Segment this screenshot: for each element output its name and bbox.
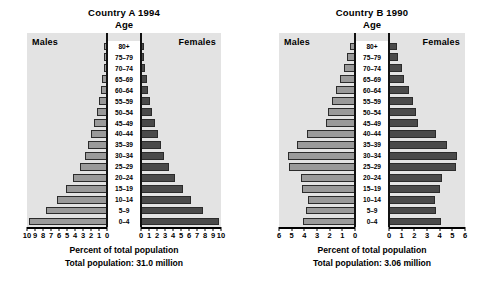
center-rule-right [388, 33, 390, 227]
age-group-label: 0–4 [355, 216, 389, 227]
female-half [389, 172, 465, 183]
bar-female [389, 207, 436, 215]
bar-male [297, 141, 355, 149]
bar-female [389, 108, 416, 116]
age-group-label: 45–49 [107, 118, 141, 129]
female-half [141, 194, 221, 205]
x-tick-label: 7 [49, 231, 53, 240]
bar-male [340, 75, 355, 83]
female-half [389, 216, 465, 227]
x-tick-label: 2 [412, 231, 416, 240]
bar-row: 50–54 [279, 107, 465, 118]
x-tick-label: 6 [277, 231, 281, 240]
male-half [279, 139, 355, 150]
male-half [279, 107, 355, 118]
female-half [389, 52, 465, 63]
x-tick-label: 10 [23, 231, 31, 240]
plot-area: Males Females 80+75–7970–7465–6960–6455–… [27, 33, 221, 227]
bar-row: 10–14 [27, 194, 221, 205]
age-group-label: 40–44 [355, 129, 389, 140]
x-tick-label: 3 [425, 231, 429, 240]
female-half [389, 194, 465, 205]
x-tick-label: 6 [463, 231, 467, 240]
age-group-label: 45–49 [355, 118, 389, 129]
male-half [279, 85, 355, 96]
age-group-label: 60–64 [107, 85, 141, 96]
male-half [27, 118, 107, 129]
bar-row: 20–24 [27, 172, 221, 183]
bar-row: 30–34 [27, 150, 221, 161]
bar-row: 5–9 [27, 205, 221, 216]
x-tick-label: 8 [41, 231, 45, 240]
bar-row: 65–69 [279, 74, 465, 85]
x-tick-label: 7 [195, 231, 199, 240]
bar-row: 70–74 [279, 63, 465, 74]
male-half [279, 205, 355, 216]
age-group-label: 75–79 [355, 52, 389, 63]
bar-row: 60–64 [27, 85, 221, 96]
x-tick-label: 5 [65, 231, 69, 240]
female-half [389, 118, 465, 129]
female-half [141, 107, 221, 118]
bar-row: 75–79 [27, 52, 221, 63]
x-tick-label: 9 [33, 231, 37, 240]
bar-female [141, 108, 152, 116]
bar-male [91, 130, 107, 138]
age-group-label: 60–64 [355, 85, 389, 96]
bar-male [88, 141, 107, 149]
bar-female [389, 196, 435, 204]
bar-female [389, 75, 404, 83]
bar-female [389, 141, 447, 149]
x-tick-label: 2 [89, 231, 93, 240]
age-group-label: 70–74 [355, 63, 389, 74]
female-half [141, 172, 221, 183]
age-axis-title: Age [0, 19, 248, 31]
x-tick-label: 2 [155, 231, 159, 240]
age-group-label: 55–59 [355, 96, 389, 107]
bar-female [141, 218, 219, 226]
x-tick-label: 1 [400, 231, 404, 240]
bar-female [389, 218, 441, 226]
series-label-males: Males [32, 37, 58, 47]
bar-female [141, 207, 203, 215]
male-half [27, 74, 107, 85]
age-group-label: 20–24 [107, 172, 141, 183]
age-group-label: 70–74 [107, 63, 141, 74]
female-half [389, 161, 465, 172]
x-tick-label: 0 [105, 231, 109, 240]
male-half [279, 172, 355, 183]
male-half [279, 183, 355, 194]
bar-row: 25–29 [27, 161, 221, 172]
age-group-label: 25–29 [107, 161, 141, 172]
age-group-label: 5–9 [355, 205, 389, 216]
age-group-label: 65–69 [107, 74, 141, 85]
age-group-label: 50–54 [107, 107, 141, 118]
age-group-label: 30–34 [107, 150, 141, 161]
bar-rows: 80+75–7970–7465–6960–6455–5950–5445–4940… [279, 41, 465, 227]
bar-female [141, 152, 164, 160]
female-half [141, 96, 221, 107]
female-half [141, 139, 221, 150]
female-half [141, 150, 221, 161]
female-half [141, 129, 221, 140]
bar-row: 40–44 [27, 129, 221, 140]
bar-row: 55–59 [279, 96, 465, 107]
bar-male [85, 152, 107, 160]
x-tick-label: 1 [97, 231, 101, 240]
bar-row: 15–19 [27, 183, 221, 194]
bar-female [389, 152, 457, 160]
bar-male [302, 185, 355, 193]
x-tick-label: 6 [57, 231, 61, 240]
female-half [141, 118, 221, 129]
chart-title: Country A 1994 [0, 7, 248, 18]
male-half [27, 194, 107, 205]
female-half [141, 74, 221, 85]
age-group-label: 0–4 [107, 216, 141, 227]
bar-male [29, 218, 107, 226]
male-half [27, 129, 107, 140]
center-rule-left [106, 33, 108, 227]
age-group-label: 10–14 [355, 194, 389, 205]
bar-male [73, 174, 107, 182]
bar-male [303, 218, 355, 226]
x-axis: 65432100123456 [279, 227, 465, 242]
